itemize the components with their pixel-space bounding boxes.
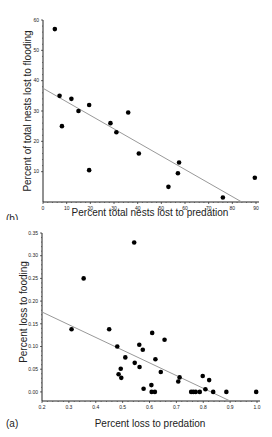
y-tick-label: 0.20 bbox=[28, 298, 38, 304]
x-tick-label: 0.3 bbox=[65, 404, 72, 410]
data-point bbox=[200, 374, 205, 379]
data-point bbox=[132, 361, 137, 366]
data-point bbox=[158, 370, 163, 375]
data-point bbox=[114, 130, 119, 135]
axes-bottom: 0.20.30.40.50.60.70.80.91.00.000.050.100… bbox=[28, 230, 260, 410]
x-tick-label: 0.7 bbox=[173, 404, 180, 410]
data-point bbox=[150, 331, 155, 336]
x-tick-label: 0.8 bbox=[200, 404, 207, 410]
y-tick-label: 20 bbox=[33, 138, 39, 144]
data-point bbox=[126, 110, 131, 115]
data-point bbox=[166, 185, 171, 190]
data-point bbox=[162, 337, 167, 342]
regression-line bbox=[42, 312, 230, 401]
panel-label-a: (a) bbox=[6, 418, 18, 429]
data-point bbox=[153, 357, 158, 362]
x-tick-label: 0.2 bbox=[39, 404, 46, 410]
data-point bbox=[60, 124, 65, 129]
data-points-top bbox=[43, 27, 257, 202]
y-tick-label: 0.25 bbox=[28, 275, 38, 281]
scatter-plot-bottom: 0.20.30.40.50.60.70.80.91.00.000.050.100… bbox=[0, 220, 272, 437]
y-tick-label: 10 bbox=[33, 168, 39, 174]
data-point bbox=[81, 276, 86, 281]
data-point bbox=[140, 347, 145, 352]
y-tick-label: 50 bbox=[33, 47, 39, 53]
x-tick-label: 0.9 bbox=[227, 404, 234, 410]
x-tick-label: 0.6 bbox=[146, 404, 153, 410]
y-tick-label: 0.00 bbox=[28, 389, 38, 395]
data-point bbox=[221, 195, 226, 200]
y-tick-label: 0.30 bbox=[28, 252, 38, 258]
data-point bbox=[53, 27, 58, 32]
x-axis-label-bottom: Percent loss to predation bbox=[95, 418, 206, 429]
data-point bbox=[119, 376, 124, 381]
x-tick-label: 0 bbox=[42, 205, 45, 211]
data-point bbox=[254, 390, 259, 395]
data-point bbox=[176, 379, 181, 384]
chart-bottom-panel-a: 0.20.30.40.50.60.70.80.91.00.000.050.100… bbox=[0, 220, 272, 437]
y-tick-label: 40 bbox=[33, 77, 39, 83]
data-point bbox=[141, 386, 146, 391]
data-point bbox=[149, 383, 154, 388]
x-tick-label: 0.5 bbox=[119, 404, 126, 410]
data-point bbox=[69, 327, 74, 332]
data-point bbox=[69, 97, 74, 102]
y-tick-label: 0.05 bbox=[28, 366, 38, 372]
data-point bbox=[137, 342, 142, 347]
x-tick-label: 10 bbox=[64, 205, 70, 211]
data-point bbox=[197, 390, 202, 395]
y-tick-label: 0.15 bbox=[28, 321, 38, 327]
data-point bbox=[193, 390, 198, 395]
data-point bbox=[57, 94, 62, 99]
x-axis-label-top: Percent total nests lost to predation bbox=[72, 207, 229, 218]
data-point bbox=[87, 103, 92, 108]
scatter-plot-top: 0102030405060708090102030405060 Percent … bbox=[0, 0, 272, 220]
x-tick-label: 80 bbox=[230, 205, 236, 211]
data-point bbox=[123, 355, 128, 360]
y-axis-label-bottom: Percent loss to fooding bbox=[18, 261, 29, 363]
axes-top: 0102030405060708090102030405060 bbox=[33, 17, 259, 211]
x-tick-label: 1.0 bbox=[254, 404, 261, 410]
data-point bbox=[203, 387, 208, 392]
data-point bbox=[115, 344, 120, 349]
regression-line bbox=[43, 88, 242, 202]
y-tick-label: 30 bbox=[33, 108, 39, 114]
data-point bbox=[76, 109, 81, 114]
data-point bbox=[137, 151, 142, 156]
panel-label-b: (b) bbox=[6, 213, 18, 220]
y-axis-label-top: Percent of total nests lost to flooding bbox=[22, 30, 33, 191]
y-tick-label: 0.10 bbox=[28, 343, 38, 349]
data-point bbox=[211, 390, 216, 395]
data-point bbox=[87, 168, 92, 173]
data-point bbox=[253, 175, 258, 180]
data-point bbox=[176, 171, 181, 176]
x-tick-label: 90 bbox=[253, 205, 259, 211]
y-tick-label: 0.35 bbox=[28, 230, 38, 236]
data-points-bottom bbox=[42, 240, 258, 401]
data-point bbox=[118, 366, 123, 371]
data-point bbox=[207, 378, 212, 383]
chart-top-panel-b: 0102030405060708090102030405060 Percent … bbox=[0, 0, 272, 220]
y-tick-label: 60 bbox=[33, 17, 39, 23]
data-point bbox=[177, 375, 182, 380]
x-tick-label: 0.4 bbox=[92, 404, 99, 410]
data-point bbox=[132, 240, 137, 245]
data-point bbox=[224, 390, 229, 395]
data-point bbox=[107, 327, 112, 332]
data-point bbox=[137, 365, 142, 370]
data-point bbox=[153, 390, 158, 395]
data-point bbox=[108, 121, 113, 126]
data-point bbox=[177, 160, 182, 165]
